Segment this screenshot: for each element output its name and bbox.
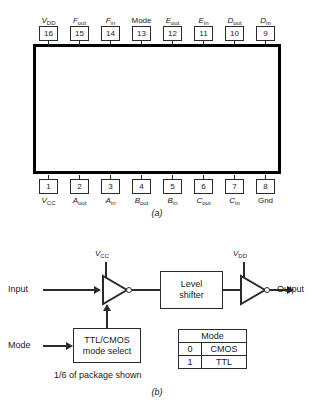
mode-feedback-wire <box>106 310 108 328</box>
pin-name-8: Gnd <box>258 196 273 205</box>
pin-bottom-2: 2Aout <box>70 179 89 194</box>
pin-lead-13 <box>141 41 142 45</box>
pin-lead-12 <box>172 41 173 45</box>
mode-name: CMOS <box>202 343 247 356</box>
pin-lead-6 <box>203 175 204 179</box>
pin-top-16: VDD16 <box>39 26 58 41</box>
pin-bottom-5: 5Bin <box>163 179 182 194</box>
mode-select-line2: mode select <box>83 346 132 357</box>
figure-b-caption: (b) <box>0 387 314 397</box>
mode-table-row: 0CMOS <box>179 343 247 356</box>
input-label: Input <box>8 284 28 294</box>
level-shifter-box: Level shifter <box>160 271 223 309</box>
pin-name-7: Cin <box>229 196 239 205</box>
pin-bottom-4: 4Bout <box>132 179 151 194</box>
pin-lead-3 <box>110 175 111 179</box>
pin-number-12: 12 <box>163 26 182 41</box>
pin-number-13: 13 <box>132 26 151 41</box>
pin-name-11: Ein <box>198 16 208 25</box>
pin-name-12: Eout <box>166 16 180 25</box>
pin-lead-14 <box>110 41 111 45</box>
mode-table-header-row: Mode <box>179 330 247 343</box>
pin-number-14: 14 <box>101 26 120 41</box>
mode-table-header: Mode <box>179 330 247 343</box>
pin-name-5: Bin <box>167 196 177 205</box>
mode-value: 1 <box>179 356 202 369</box>
package-fraction-note: 1/6 of package shown <box>54 370 142 380</box>
pin-number-16: 16 <box>39 26 58 41</box>
pin-bottom-1: 1VCC <box>39 179 58 194</box>
pin-number-6: 6 <box>194 179 213 194</box>
pin-number-15: 15 <box>70 26 89 41</box>
pin-lead-7 <box>234 175 235 179</box>
pin-top-9: Din9 <box>256 26 275 41</box>
mode-feedback-arrow-icon <box>103 304 111 311</box>
pin-number-1: 1 <box>39 179 58 194</box>
pin-number-11: 11 <box>194 26 213 41</box>
mode-name: TTL <box>202 356 247 369</box>
pin-name-1: VCC <box>41 196 55 205</box>
pin-lead-8 <box>265 175 266 179</box>
pin-name-16: VDD <box>41 16 55 25</box>
pin-lead-1 <box>48 175 49 179</box>
pin-name-2: Aout <box>73 196 87 205</box>
pin-name-3: Ain <box>105 196 115 205</box>
pin-name-10: Dout <box>227 16 241 25</box>
figure-a-dip-package: VDD16Fout15Fin14Mode13Eout12Ein11Dout10D… <box>0 0 314 232</box>
level-shifter-line1: Level <box>181 279 203 290</box>
inverter-to-shifter-wire <box>132 289 160 291</box>
pin-top-13: Mode13 <box>132 26 151 41</box>
pin-name-15: Fout <box>73 16 86 25</box>
pin-top-15: Fout15 <box>70 26 89 41</box>
pin-top-14: Fin14 <box>101 26 120 41</box>
vdd-label: VDD <box>233 249 247 258</box>
pin-name-9: Din <box>260 16 270 25</box>
package-body-outline <box>33 44 281 174</box>
pin-number-4: 4 <box>132 179 151 194</box>
mode-label: Mode <box>8 340 31 350</box>
pin-number-3: 3 <box>101 179 120 194</box>
figure-b-block-diagram: Input VCC Level shifter VDD Output Mode … <box>0 232 314 410</box>
pin-lead-11 <box>203 41 204 45</box>
mode-table-row: 1TTL <box>179 356 247 369</box>
pin-number-5: 5 <box>163 179 182 194</box>
pin-number-7: 7 <box>225 179 244 194</box>
pin-bottom-6: 6Cout <box>194 179 213 194</box>
pin-name-4: Bout <box>135 196 149 205</box>
pin-bottom-8: 8Gnd <box>256 179 275 194</box>
mode-arrow-icon <box>66 342 73 350</box>
pin-lead-5 <box>172 175 173 179</box>
pin-lead-9 <box>265 41 266 45</box>
mode-value: 0 <box>179 343 202 356</box>
pin-lead-10 <box>234 41 235 45</box>
input-wire <box>43 289 98 291</box>
input-arrow-icon <box>94 286 101 294</box>
level-shifter-line2: shifter <box>179 290 204 301</box>
pin-lead-16 <box>48 41 49 45</box>
pin-lead-4 <box>141 175 142 179</box>
pin-bottom-3: 3Ain <box>101 179 120 194</box>
pin-top-10: Dout10 <box>225 26 244 41</box>
pin-name-13: Mode <box>131 16 151 25</box>
pin-lead-2 <box>79 175 80 179</box>
pin-lead-15 <box>79 41 80 45</box>
mode-select-line1: TTL/CMOS <box>84 335 130 346</box>
pin-bottom-7: 7Cin <box>225 179 244 194</box>
pin-number-2: 2 <box>70 179 89 194</box>
output-label: Output <box>277 284 304 294</box>
pin-number-9: 9 <box>256 26 275 41</box>
pin-name-6: Cout <box>196 196 210 205</box>
pin-top-12: Eout12 <box>163 26 182 41</box>
vcc-label: VCC <box>95 249 109 258</box>
figure-a-caption: (a) <box>0 208 314 218</box>
pin-top-11: Ein11 <box>194 26 213 41</box>
mode-select-box: TTL/CMOS mode select <box>73 328 141 363</box>
pin-number-8: 8 <box>256 179 275 194</box>
pin-number-10: 10 <box>225 26 244 41</box>
mode-truth-table: Mode 0CMOS1TTL <box>178 329 247 369</box>
pin-name-14: Fin <box>106 16 116 25</box>
